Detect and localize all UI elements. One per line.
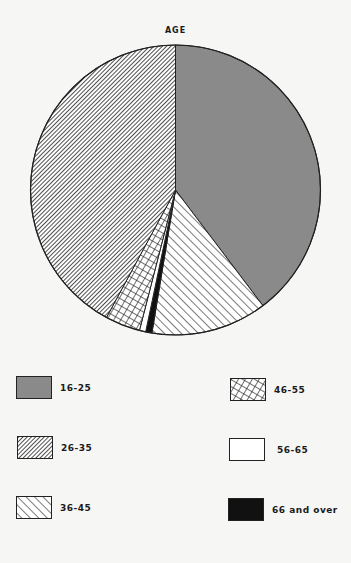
legend-item-16-25: 16-25 <box>16 376 91 399</box>
legend-swatch-dense-hatch <box>17 436 53 459</box>
legend-item-26-35: 26-35 <box>17 436 92 459</box>
legend-label: 36-45 <box>60 503 91 513</box>
pie-slices <box>31 45 321 335</box>
legend-label: 46-55 <box>274 385 305 395</box>
legend-item-56-65: 56-65 <box>229 438 308 461</box>
legend-label: 66 and over <box>272 505 338 515</box>
legend-swatch-wide-hatch <box>16 496 52 519</box>
legend-swatch-white <box>229 438 265 461</box>
legend-item-36-45: 36-45 <box>16 496 91 519</box>
legend-swatch-crosshatch <box>230 378 266 401</box>
legend-swatch-black <box>228 498 264 521</box>
legend-swatch-gray <box>16 376 52 399</box>
pie-chart <box>0 0 351 563</box>
legend-label: 26-35 <box>61 443 92 453</box>
legend-item-46-55: 46-55 <box>230 378 305 401</box>
legend-item-66-and-over: 66 and over <box>228 498 338 521</box>
legend-label: 16-25 <box>60 383 91 393</box>
legend-label: 56-65 <box>277 445 308 455</box>
